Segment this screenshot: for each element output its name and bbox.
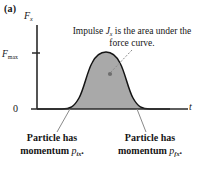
impulse-shaded-area <box>37 52 170 109</box>
y-axis-label-subscript: x <box>30 15 33 22</box>
impulse-force-curve-figure: (a) Fx t Fmax 0 Impulse Jx is the area u… <box>0 0 201 172</box>
caption-final-momentum: Particle hasmomentum pfx. <box>104 131 196 158</box>
y-axis-label: Fx <box>24 10 33 23</box>
impulse-annotation-part1: Impulse <box>73 26 106 36</box>
caption-right-leader-line <box>137 109 146 132</box>
caption-left-line1: Particle has <box>27 132 77 143</box>
x-axis-label: t <box>189 101 192 112</box>
caption-left-trailing: . <box>81 145 84 156</box>
fmax-tick-label: Fmax <box>2 49 18 60</box>
caption-left-line2: momentum <box>20 145 71 156</box>
fmax-subscript: max <box>8 54 18 60</box>
impulse-annotation-part2: is the area under the force curve. <box>109 26 191 48</box>
origin-label: 0 <box>13 103 18 114</box>
caption-initial-momentum: Particle hasmomentum pix. <box>6 131 98 158</box>
impulse-annotation: Impulse Jx is the area under the force c… <box>70 26 194 50</box>
caption-left-leader-line <box>57 109 70 132</box>
caption-right-trailing: . <box>180 145 183 156</box>
caption-right-line1: Particle has <box>125 132 175 143</box>
caption-right-line2: momentum <box>118 145 169 156</box>
panel-label: (a) <box>4 3 16 14</box>
annotation-leader-dot <box>108 72 112 76</box>
